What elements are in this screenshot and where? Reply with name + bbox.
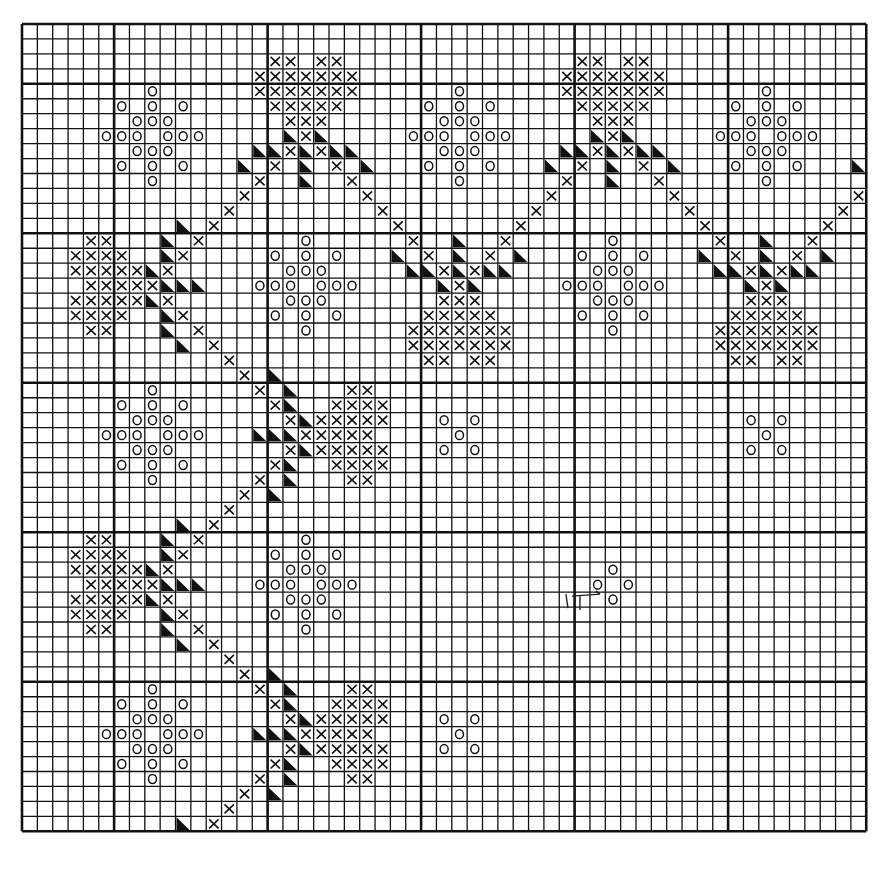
cross-stitch-chart <box>0 0 881 875</box>
grid-lines <box>22 24 866 831</box>
